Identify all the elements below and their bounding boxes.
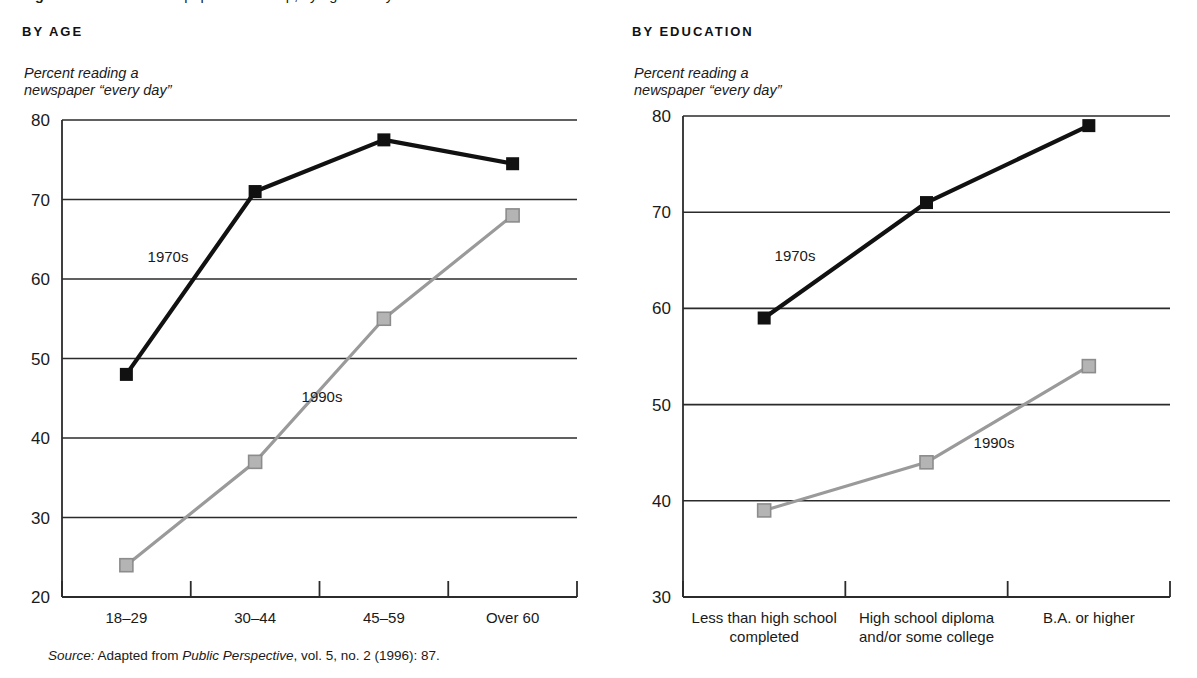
y-tick-label-30: 30 — [652, 588, 671, 607]
source-journal: Public Perspective — [182, 648, 293, 663]
y-tick-label-30: 30 — [31, 509, 50, 528]
series-label-1990s: 1990s — [974, 434, 1015, 451]
data-point-1990s-0 — [120, 559, 133, 572]
chart-panel-by-age: 2030405060708018–2930–4445–59Over 601970… — [0, 0, 600, 678]
data-point-1990s-1 — [920, 456, 933, 469]
x-tick-label-1: High school diploma — [859, 609, 995, 626]
data-point-1990s-1 — [249, 455, 262, 468]
data-point-1990s-0 — [758, 504, 771, 517]
data-point-1990s-3 — [506, 209, 519, 222]
series-line-1990s — [764, 366, 1089, 510]
y-tick-label-70: 70 — [31, 191, 50, 210]
source-lead: Source: — [48, 648, 95, 663]
series-label-1970s: 1970s — [775, 247, 816, 264]
chart-by-age: 2030405060708018–2930–4445–59Over 601970… — [0, 0, 600, 678]
x-tick-label-2: 45–59 — [363, 609, 405, 626]
series-label-1990s: 1990s — [302, 388, 343, 405]
x-tick-label-0: completed — [730, 628, 799, 645]
y-tick-label-80: 80 — [31, 111, 50, 130]
data-point-1970s-2 — [1082, 119, 1095, 132]
y-tick-label-70: 70 — [652, 203, 671, 222]
x-tick-label-0: 18–29 — [106, 609, 148, 626]
y-tick-label-50: 50 — [652, 396, 671, 415]
x-tick-label-3: Over 60 — [486, 609, 539, 626]
series-line-1970s — [764, 126, 1089, 318]
figure-container: Figure 1. Trends in newspaper readership… — [0, 0, 1197, 678]
data-point-1970s-0 — [120, 368, 133, 381]
chart-by-education: 304050607080Less than high schoolcomplet… — [610, 0, 1197, 678]
data-point-1970s-3 — [506, 157, 519, 170]
x-tick-label-0: Less than high school — [692, 609, 837, 626]
x-tick-label-2: B.A. or higher — [1043, 609, 1135, 626]
source-text-before: Adapted from — [95, 648, 183, 663]
y-tick-label-40: 40 — [652, 492, 671, 511]
y-tick-label-50: 50 — [31, 350, 50, 369]
chart-panel-by-education: 304050607080Less than high schoolcomplet… — [610, 0, 1197, 678]
data-point-1990s-2 — [1082, 360, 1095, 373]
x-tick-label-1: and/or some college — [859, 628, 994, 645]
data-point-1970s-1 — [920, 196, 933, 209]
data-point-1970s-2 — [377, 133, 390, 146]
y-tick-label-20: 20 — [31, 588, 50, 607]
y-tick-label-40: 40 — [31, 429, 50, 448]
source-note: Source: Adapted from Public Perspective,… — [48, 648, 440, 663]
data-point-1970s-0 — [758, 312, 771, 325]
data-point-1970s-1 — [249, 185, 262, 198]
y-tick-label-60: 60 — [31, 270, 50, 289]
data-point-1990s-2 — [377, 312, 390, 325]
y-tick-label-60: 60 — [652, 299, 671, 318]
source-text-after: , vol. 5, no. 2 (1996): 87. — [293, 648, 439, 663]
x-tick-label-1: 30–44 — [234, 609, 276, 626]
y-tick-label-80: 80 — [652, 107, 671, 126]
series-label-1970s: 1970s — [148, 248, 189, 265]
